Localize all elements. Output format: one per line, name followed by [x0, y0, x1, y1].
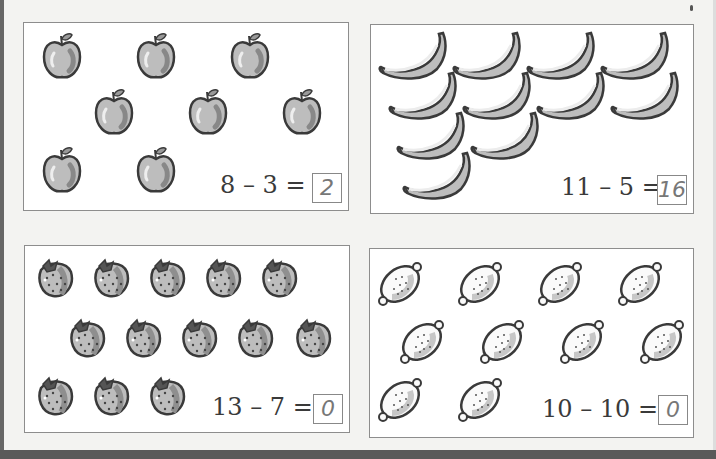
lemon-icon — [534, 261, 586, 311]
answer-box-lemons[interactable]: 0 — [658, 395, 688, 425]
page-edge-bottom — [0, 450, 716, 459]
equation-apples: 8 – 3 = — [220, 171, 306, 199]
answer-box-strawberries[interactable]: 0 — [313, 394, 343, 424]
lemon-icon — [476, 319, 528, 369]
banana-icon — [609, 71, 681, 127]
apple-icon — [92, 89, 136, 141]
apple-icon — [228, 33, 272, 85]
strawberry-icon — [35, 256, 75, 304]
strawberry-icon — [147, 374, 187, 422]
panel-lemons: 10 – 10 = 0 — [369, 248, 694, 438]
equation-strawberries: 13 – 7 = — [212, 393, 313, 421]
equation-bananas: 11 – 5 = — [561, 173, 662, 201]
lemon-icon — [556, 319, 608, 369]
lemon-icon — [374, 261, 426, 311]
lemon-icon — [374, 377, 426, 427]
apple-icon — [186, 89, 230, 141]
strawberry-icon — [67, 316, 107, 364]
strawberry-icon — [179, 316, 219, 364]
strawberry-icon — [259, 256, 299, 304]
apple-icon — [280, 89, 324, 141]
answer-box-apples[interactable]: 2 — [312, 173, 342, 203]
strawberry-icon — [123, 316, 163, 364]
banana-icon — [535, 71, 607, 127]
strawberry-icon — [235, 316, 275, 364]
panel-bananas: 11 – 5 = 16 — [370, 24, 694, 214]
lemon-icon — [396, 319, 448, 369]
lemon-icon — [454, 261, 506, 311]
apple-icon — [40, 147, 84, 199]
strawberry-icon — [293, 316, 333, 364]
panel-apples: 8 – 3 = 2 — [23, 22, 349, 211]
panel-strawberries: 13 – 7 = 0 — [24, 245, 350, 433]
apple-icon — [134, 147, 178, 199]
banana-icon — [469, 111, 541, 167]
lemon-icon — [454, 377, 506, 427]
ink-speck — [690, 5, 693, 11]
lemon-icon — [636, 319, 688, 369]
strawberry-icon — [35, 374, 75, 422]
equation-lemons: 10 – 10 = — [542, 395, 658, 423]
page-edge-left — [0, 0, 4, 459]
apple-icon — [40, 33, 84, 85]
lemon-icon — [614, 261, 666, 311]
apple-icon — [134, 33, 178, 85]
strawberry-icon — [203, 256, 243, 304]
strawberry-icon — [91, 256, 131, 304]
answer-box-bananas[interactable]: 16 — [657, 175, 687, 205]
banana-icon — [401, 151, 473, 207]
strawberry-icon — [147, 256, 187, 304]
strawberry-icon — [91, 374, 131, 422]
